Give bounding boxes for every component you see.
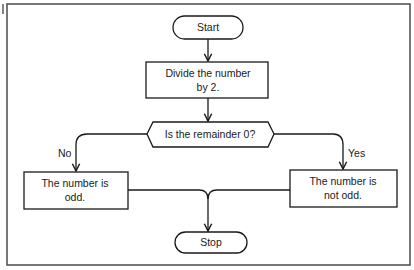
decision-label: Is the remainder 0?: [165, 128, 256, 140]
divide-label-line-1: Divide the number: [165, 67, 251, 79]
node-divide: Divide the number by 2.: [146, 62, 268, 98]
edge-label-yes: Yes: [348, 147, 365, 159]
edge-decision-not-odd: [274, 134, 343, 169]
node-not-odd: The number is not odd.: [290, 170, 397, 207]
node-stop: Stop: [175, 232, 247, 253]
not-odd-label-line-2: not odd.: [324, 189, 362, 201]
divide-label-line-2: by 2.: [197, 81, 220, 93]
edge-not-odd-stop: [208, 190, 290, 199]
edge-decision-odd: [76, 134, 147, 171]
stop-label: Stop: [200, 236, 222, 248]
flowchart-diagram: No Yes Start Divide the number by 2. Is …: [0, 0, 414, 270]
edge-odd-stop: [128, 190, 208, 199]
node-decision: Is the remainder 0?: [147, 122, 274, 147]
node-odd: The number is odd.: [24, 172, 128, 209]
odd-label-line-1: The number is: [41, 177, 108, 189]
node-start: Start: [173, 16, 243, 39]
edge-label-no: No: [58, 147, 72, 159]
odd-label-line-2: odd.: [65, 191, 85, 203]
start-label: Start: [197, 21, 219, 33]
not-odd-label-line-1: The number is: [309, 175, 376, 187]
